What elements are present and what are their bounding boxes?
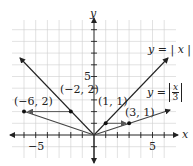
label-point-1-1: (1, 1)	[98, 96, 128, 107]
tick-label-y5: 5	[84, 71, 91, 82]
tick-label-pos5: 5	[149, 141, 156, 152]
y-axis-label: y	[90, 8, 96, 19]
x-axis-label: x	[182, 129, 188, 140]
point-m2-2	[69, 110, 73, 114]
point-1-1	[104, 121, 108, 125]
label-point-3-1: (3, 1)	[125, 107, 155, 118]
equation-prefix: y =	[147, 86, 166, 99]
label-point-m2-2: (−2, 2)	[60, 84, 99, 95]
label-point-m6-2: (−6, 2)	[14, 96, 53, 107]
fraction-denominator: 3	[173, 93, 179, 102]
point-m6-2	[22, 110, 26, 114]
point-3-1	[127, 121, 131, 125]
equation-abs-x: y = | x |	[148, 44, 191, 55]
tick-label-neg5: −5	[28, 141, 44, 152]
equation-abs-x-over-3: y = x 3	[147, 83, 182, 102]
